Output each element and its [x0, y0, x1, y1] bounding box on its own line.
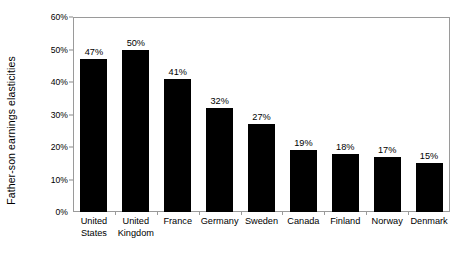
bar-group[interactable]: 19%	[290, 17, 317, 212]
bar[interactable]	[332, 154, 359, 213]
bar-value-label: 27%	[252, 112, 270, 122]
x-category-label: Norway	[366, 216, 408, 228]
x-category-label: Germany	[199, 216, 241, 228]
bar-group[interactable]: 15%	[416, 17, 443, 212]
x-category-label-line: Norway	[366, 216, 408, 228]
bars-layer: 47%50%41%32%27%19%18%17%15%	[73, 17, 450, 212]
x-category-label: Finland	[324, 216, 366, 228]
y-tick-label: 10%	[26, 175, 68, 185]
x-tick-mark	[199, 212, 200, 215]
x-category-label-line: Kingdom	[115, 228, 157, 240]
x-tick-mark	[324, 212, 325, 215]
bar[interactable]	[248, 124, 275, 212]
x-category-label-line: United	[73, 216, 115, 228]
y-tick-label: 0%	[26, 207, 68, 217]
x-category-label: Canada	[282, 216, 324, 228]
bar-group[interactable]: 17%	[374, 17, 401, 212]
y-tick-mark	[69, 49, 73, 50]
x-category-label-line: United	[115, 216, 157, 228]
y-tick-mark	[69, 17, 73, 18]
x-tick-mark	[282, 212, 283, 215]
bar[interactable]	[122, 50, 149, 213]
y-axis-title: Father-son earnings elasticities	[0, 0, 22, 261]
y-tick-label: 40%	[26, 77, 68, 87]
x-category-label: Denmark	[408, 216, 450, 228]
bar-chart: Father-son earnings elasticities 0%10%20…	[0, 0, 462, 261]
y-tick-label: 20%	[26, 142, 68, 152]
x-tick-mark	[241, 212, 242, 215]
bar-group[interactable]: 18%	[332, 17, 359, 212]
bar[interactable]	[164, 79, 191, 212]
bar-value-label: 32%	[210, 96, 228, 106]
x-tick-mark	[408, 212, 409, 215]
y-tick-mark	[69, 147, 73, 148]
x-category-label-line: Sweden	[241, 216, 283, 228]
bar-value-label: 15%	[420, 151, 438, 161]
bar-group[interactable]: 41%	[164, 17, 191, 212]
y-tick-label: 30%	[26, 110, 68, 120]
bar[interactable]	[416, 163, 443, 212]
bar-value-label: 50%	[127, 38, 145, 48]
bar-group[interactable]: 27%	[248, 17, 275, 212]
bar-value-label: 19%	[294, 138, 312, 148]
bar-group[interactable]: 32%	[206, 17, 233, 212]
x-category-label-line: Canada	[282, 216, 324, 228]
x-tick-mark	[115, 212, 116, 215]
bar-value-label: 41%	[169, 67, 187, 77]
bar[interactable]	[206, 108, 233, 212]
x-category-label: Sweden	[241, 216, 283, 228]
y-tick-mark	[69, 179, 73, 180]
y-axis-tick-labels: 0%10%20%30%40%50%60%	[26, 0, 68, 261]
bar[interactable]	[80, 59, 107, 212]
x-category-label-line: States	[73, 228, 115, 240]
x-category-label-line: Finland	[324, 216, 366, 228]
y-tick-label: 60%	[26, 12, 68, 22]
bar-value-label: 47%	[85, 47, 103, 57]
bar[interactable]	[290, 150, 317, 212]
x-category-label: UnitedKingdom	[115, 216, 157, 239]
x-axis-category-labels: UnitedStatesUnitedKingdomFranceGermanySw…	[73, 216, 450, 256]
bar-value-label: 18%	[336, 142, 354, 152]
bar-value-label: 17%	[378, 145, 396, 155]
x-category-label: France	[157, 216, 199, 228]
bar[interactable]	[374, 157, 401, 212]
bar-group[interactable]: 50%	[122, 17, 149, 212]
y-tick-label: 50%	[26, 45, 68, 55]
bar-group[interactable]: 47%	[80, 17, 107, 212]
x-category-label-line: Germany	[199, 216, 241, 228]
x-category-label-line: Denmark	[408, 216, 450, 228]
y-tick-mark	[69, 114, 73, 115]
x-category-label: UnitedStates	[73, 216, 115, 239]
x-tick-mark	[366, 212, 367, 215]
x-category-label-line: France	[157, 216, 199, 228]
x-tick-mark	[157, 212, 158, 215]
y-tick-mark	[69, 82, 73, 83]
